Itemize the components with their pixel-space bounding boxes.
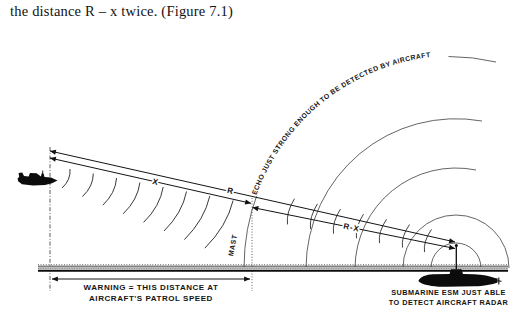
figure-7-1-diagram: X R R-X MAST ECHO JUST STRONG ENOUGH TO … bbox=[0, 0, 526, 316]
echo-arc-3 bbox=[355, 168, 476, 268]
radar-wavefronts bbox=[62, 169, 233, 248]
label-x: X bbox=[152, 177, 160, 187]
label-r: R bbox=[226, 186, 234, 196]
echo-arc-outer-lower bbox=[244, 192, 258, 268]
submarine-caption-line1: SUBMARINE ESM JUST ABLE bbox=[391, 288, 506, 297]
echo-arc-outer-upper bbox=[449, 57, 497, 63]
esm-antenna-icon bbox=[455, 244, 458, 247]
mast-label: MAST bbox=[227, 233, 238, 256]
warning-text-line1: WARNING = THIS DISTANCE AT bbox=[84, 283, 219, 292]
book-page: the distance R – x twice. (Figure 7.1) bbox=[0, 0, 526, 316]
sea-surface bbox=[38, 265, 508, 271]
distance-line-r bbox=[50, 151, 455, 242]
echo-arc-label: ECHO JUST STRONG ENOUGH TO BE DETECTED B… bbox=[251, 51, 432, 196]
submarine-caption-line2: TO DETECT AIRCRAFT RADAR bbox=[389, 298, 509, 307]
label-r-minus-x: R-X bbox=[343, 222, 361, 234]
submarine-propeller-icon bbox=[498, 278, 502, 285]
echo-wavefront-arcs bbox=[244, 57, 509, 269]
warning-text-line2: AIRCRAFT'S PATROL SPEED bbox=[89, 294, 213, 303]
distance-line-x bbox=[50, 158, 251, 203]
aircraft-silhouette bbox=[18, 171, 58, 186]
